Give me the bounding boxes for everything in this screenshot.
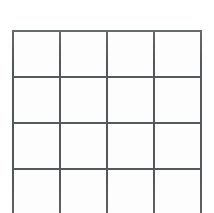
grid-cell[interactable] <box>59 76 106 122</box>
grid-cell[interactable] <box>153 30 202 76</box>
table-row <box>12 122 202 168</box>
grid-cell[interactable] <box>106 76 153 122</box>
grid-cell[interactable] <box>153 122 202 168</box>
grid-cell[interactable] <box>12 30 59 76</box>
grid-table <box>12 30 202 213</box>
table-row <box>12 30 202 76</box>
grid-cell[interactable] <box>106 122 153 168</box>
grid-cell[interactable] <box>59 168 106 213</box>
table-row <box>12 76 202 122</box>
grid-cell[interactable] <box>153 76 202 122</box>
grid-cell[interactable] <box>59 122 106 168</box>
grid-cell[interactable] <box>106 30 153 76</box>
page-canvas <box>0 0 214 213</box>
grid-cell[interactable] <box>12 122 59 168</box>
grid-cell[interactable] <box>153 168 202 213</box>
grid-cell[interactable] <box>59 30 106 76</box>
grid-cell[interactable] <box>12 168 59 213</box>
grid-cell[interactable] <box>106 168 153 213</box>
table-row-clipped <box>12 168 202 213</box>
grid-cell[interactable] <box>12 76 59 122</box>
